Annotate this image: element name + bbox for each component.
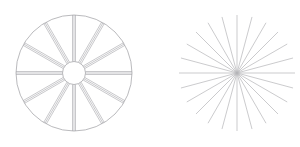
- radial-figures-canvas: [0, 0, 300, 147]
- starburst-spokes: [179, 15, 295, 131]
- figure-starburst: [179, 15, 295, 131]
- canvas-background: [0, 0, 300, 147]
